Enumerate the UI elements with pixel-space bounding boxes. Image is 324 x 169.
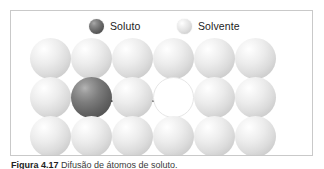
solvent-atom <box>112 77 153 118</box>
solvent-atom <box>194 77 235 118</box>
solute-atom <box>71 77 112 118</box>
legend-entry-soluto: Soluto <box>89 16 140 36</box>
solvent-atom <box>235 38 276 79</box>
legend-label-soluto: Soluto <box>110 21 140 32</box>
solvent-atom <box>153 38 194 79</box>
solvent-atom <box>153 116 194 156</box>
legend-label-solvente: Solvente <box>198 21 240 32</box>
solvent-sphere-icon <box>177 19 192 34</box>
solvent-atom <box>71 38 112 79</box>
legend-entry-solvente: Solvente <box>177 16 240 36</box>
solvent-atom <box>235 77 276 118</box>
vacancy-site <box>153 77 194 118</box>
solvent-atom <box>194 38 235 79</box>
solvent-atom <box>194 116 235 156</box>
figure-caption-text: Difusão de átomos de soluto. <box>61 160 178 169</box>
figure-root: Soluto Solvente Figura 4.17 Difusão de á… <box>0 0 324 169</box>
solvent-atom <box>30 77 71 118</box>
atom-lattice <box>11 37 313 155</box>
figure-caption-label: Figura 4.17 <box>11 160 59 169</box>
solute-sphere-icon <box>89 19 104 34</box>
figure-caption: Figura 4.17 Difusão de átomos de soluto. <box>11 160 311 169</box>
solvent-atom <box>112 116 153 156</box>
solvent-atom <box>30 38 71 79</box>
solvent-atom <box>30 116 71 156</box>
solvent-atom <box>71 116 112 156</box>
solvent-atom <box>235 116 276 156</box>
solvent-atom <box>112 38 153 79</box>
figure-frame: Soluto Solvente <box>10 10 313 156</box>
